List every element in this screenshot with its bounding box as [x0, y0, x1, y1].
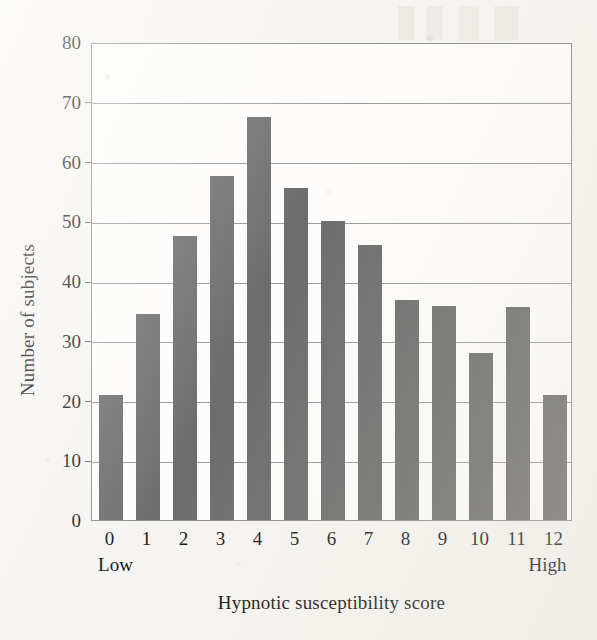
y-tick-mark [85, 102, 91, 103]
y-tick-mark [85, 222, 91, 223]
bar [432, 306, 456, 520]
bar [469, 353, 493, 520]
y-tick-label: 0 [72, 510, 82, 532]
y-tick-label: 60 [62, 152, 81, 174]
y-tick-label: 50 [62, 211, 81, 233]
y-tick-label: 30 [62, 331, 81, 353]
y-tick-mark [85, 282, 91, 283]
y-axis-title: Number of subjects [14, 0, 42, 640]
bar [543, 395, 567, 520]
y-tick-label: 40 [62, 271, 81, 293]
y-tick-label: 80 [62, 32, 81, 54]
gridline [92, 163, 571, 164]
x-tick-label: 8 [401, 528, 411, 550]
bar [173, 236, 197, 520]
x-tick-label: 4 [253, 528, 263, 550]
bar [210, 176, 234, 520]
histogram-figure: 01020304050607080 Number of subjects 012… [0, 0, 597, 640]
x-tick-label: 0 [105, 528, 115, 550]
y-tick-label: 20 [62, 391, 81, 413]
bar [136, 314, 160, 520]
plot-area [91, 43, 572, 521]
y-tick-mark [85, 401, 91, 402]
y-tick-label: 10 [62, 450, 81, 472]
x-axis-ticks: 0123456789101112LowHigh [91, 528, 572, 554]
x-tick-label: 7 [364, 528, 374, 550]
x-tick-label: 3 [216, 528, 226, 550]
x-axis-low-label: Low [98, 554, 133, 576]
bar [395, 300, 419, 520]
bar [358, 245, 382, 520]
x-tick-label: 9 [438, 528, 448, 550]
bar [284, 188, 308, 520]
bar [99, 395, 123, 520]
y-axis-title-wrapper: Number of subjects [14, 0, 42, 640]
gridline [92, 103, 571, 104]
scan-smudge-artifact [398, 6, 530, 40]
x-tick-label: 6 [327, 528, 337, 550]
y-tick-mark [85, 341, 91, 342]
y-tick-label: 70 [62, 92, 81, 114]
x-axis-high-label: High [529, 554, 567, 576]
x-axis-title: Hypnotic susceptibility score [91, 592, 572, 614]
x-tick-label: 1 [142, 528, 152, 550]
y-tick-mark [85, 162, 91, 163]
y-tick-mark [85, 461, 91, 462]
bar [506, 307, 530, 520]
x-tick-label: 10 [470, 528, 489, 550]
x-tick-label: 11 [507, 528, 525, 550]
x-tick-label: 2 [179, 528, 189, 550]
bar [321, 221, 345, 520]
bar [247, 117, 271, 520]
x-tick-label: 12 [544, 528, 563, 550]
x-tick-label: 5 [290, 528, 300, 550]
